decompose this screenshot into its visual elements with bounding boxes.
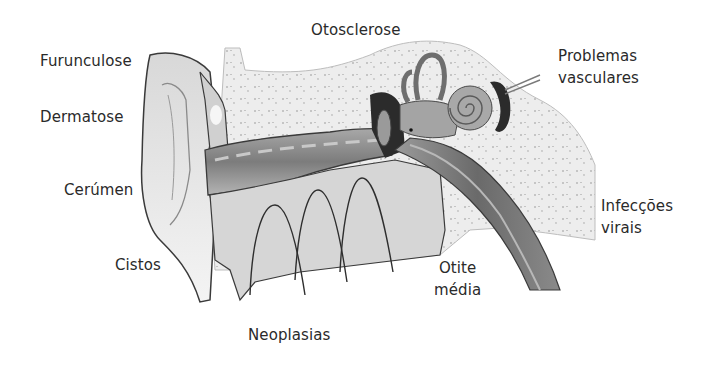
cochlea: [448, 86, 492, 130]
label-neoplasias: Neoplasias: [248, 324, 331, 346]
label-infeccoes-line2: virais: [601, 217, 673, 239]
label-problemas-line2: vasculares: [558, 67, 639, 89]
label-otite-line2: média: [434, 279, 481, 301]
label-dermatose: Dermatose: [40, 106, 124, 128]
label-otosclerose: Otosclerose: [311, 19, 400, 41]
label-furunculose: Furunculose: [40, 50, 132, 72]
label-problemas-vasculares: Problemas vasculares: [558, 45, 639, 89]
label-otite-line1: Otite: [434, 257, 481, 279]
label-problemas-line1: Problemas: [558, 45, 639, 67]
ear-diagram: Furunculose Dermatose Cerúmen Cistos Neo…: [0, 0, 705, 365]
label-infeccoes-line1: Infecções: [601, 195, 673, 217]
label-infeccoes-virais: Infecções virais: [601, 195, 673, 239]
label-cistos: Cistos: [115, 254, 161, 276]
label-otite-media: Otite média: [434, 257, 481, 301]
label-cerumen: Cerúmen: [64, 179, 133, 201]
